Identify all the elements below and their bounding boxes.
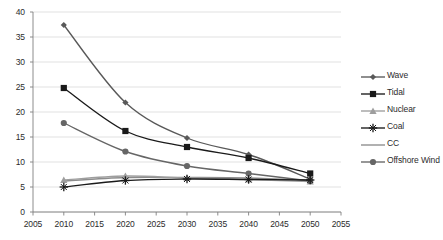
legend-item-tidal[interactable]: Tidal [360,83,443,100]
legend-marker [369,123,377,131]
datapoint-wave-2030 [184,135,190,141]
series-wave [61,22,314,182]
x-tick-label-2015: 2015 [78,219,112,229]
legend-label: Nuclear [386,104,416,114]
x-tick-label-2035: 2035 [201,219,235,229]
y-tick-label-10: 10 [3,157,25,167]
y-tick-label-5: 5 [3,182,25,192]
marker-diamond [184,135,190,141]
x-tick-label-2030: 2030 [170,219,204,229]
legend-item-offshore-wind[interactable]: Offshore Wind [360,151,443,168]
series-tidal [61,85,314,177]
x-tick-label-2050: 2050 [293,219,327,229]
marker-circle [61,120,67,126]
x-tick-label-2045: 2045 [262,219,296,229]
marker-diamond [370,73,376,79]
legend-marker-circle-icon [360,154,386,166]
x-tick-label-2010: 2010 [47,219,81,229]
x-tick-label-2040: 2040 [232,219,266,229]
datapoint-coal-2020 [121,176,129,184]
legend-label: Offshore Wind [386,155,440,165]
legend-item-cc[interactable]: CC [360,134,443,151]
chart-legend: WaveTidalNuclearCoalCCOffshore Wind [360,66,443,168]
marker-square [246,155,252,161]
legend-label: Wave [386,70,408,80]
x-tick-label-2025: 2025 [139,219,173,229]
datapoint-offshore-wind-2020 [122,148,128,154]
datapoint-offshore-wind-2030 [184,163,190,169]
legend-marker-none-icon [360,137,386,149]
marker-square [184,144,190,150]
x-tick-label-2020: 2020 [108,219,142,229]
legend-marker-diamond-icon [360,69,386,81]
legend-marker [370,158,376,164]
series-line [64,88,310,174]
series-line [64,25,310,179]
legend-marker [370,90,376,96]
legend-item-nuclear[interactable]: Nuclear [360,100,443,117]
x-tick-label-2005: 2005 [16,219,50,229]
x-tick-label-2055: 2055 [324,219,358,229]
marker-square [122,128,128,134]
y-tick-label-40: 40 [3,7,25,17]
datapoint-tidal-2010 [61,85,67,91]
legend-marker-plus-icon [360,120,386,132]
marker-circle [370,158,376,164]
legend-marker [370,73,376,79]
legend-label: CC [386,138,399,148]
y-tick-label-0: 0 [3,207,25,217]
y-tick-label-25: 25 [3,82,25,92]
legend-label: Tidal [386,87,405,97]
legend-item-wave[interactable]: Wave [360,66,443,83]
marker-circle [122,148,128,154]
marker-square [61,85,67,91]
datapoint-coal-2050 [306,176,314,184]
datapoint-coal-2030 [183,175,191,183]
marker-circle [184,163,190,169]
y-tick-label-20: 20 [3,107,25,117]
legend-marker-square-icon [360,86,386,98]
datapoint-coal-2040 [244,175,252,183]
datapoint-tidal-2020 [122,128,128,134]
marker-square [370,90,376,96]
y-tick-label-35: 35 [3,32,25,42]
datapoint-tidal-2050 [307,170,313,176]
datapoint-tidal-2040 [246,155,252,161]
legend-label: Coal [386,121,404,131]
y-tick-label-30: 30 [3,57,25,67]
marker-square [307,170,313,176]
legend-marker-triangle-icon [360,103,386,115]
legend-item-coal[interactable]: Coal [360,117,443,134]
y-tick-label-15: 15 [3,132,25,142]
datapoint-coal-2010 [60,183,68,191]
datapoint-tidal-2030 [184,144,190,150]
datapoint-offshore-wind-2010 [61,120,67,126]
line-chart: 4035302520151050 20052010201520202025203… [0,0,443,240]
series-line [64,123,310,181]
